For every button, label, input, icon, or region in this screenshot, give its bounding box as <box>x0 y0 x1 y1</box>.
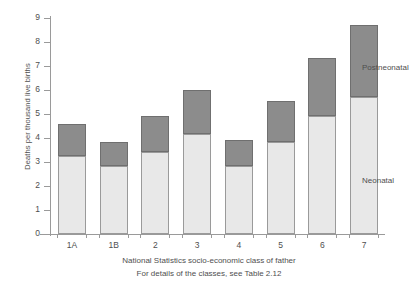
bar-5 <box>267 101 295 234</box>
x-tick-mark <box>211 234 212 238</box>
y-tick-mark <box>44 162 50 163</box>
x-tick-label-1B: 1B <box>94 240 134 250</box>
x-tick-mark <box>57 234 58 238</box>
x-tick-mark <box>99 234 100 238</box>
bar-segment-neonatal <box>350 97 378 234</box>
bar-segment-neonatal <box>141 152 169 234</box>
y-tick-mark <box>44 66 50 67</box>
bar-2 <box>141 116 169 234</box>
bar-segment-neonatal <box>58 156 86 234</box>
x-tick-label-3: 3 <box>177 240 217 250</box>
x-tick-label-4: 4 <box>219 240 259 250</box>
x-tick-mark <box>224 234 225 238</box>
y-tick-mark <box>44 90 50 91</box>
x-tick-mark <box>140 234 141 238</box>
x-tick-label-5: 5 <box>261 240 301 250</box>
x-tick-label-6: 6 <box>302 240 342 250</box>
y-tick-mark <box>44 234 50 235</box>
bar-segment-neonatal <box>100 166 128 234</box>
y-tick-label: 9 <box>20 13 40 22</box>
x-tick-mark <box>266 234 267 238</box>
x-tick-mark <box>253 234 254 238</box>
bar-segment-postneonatal <box>100 142 128 166</box>
y-tick-label: 3 <box>20 157 40 166</box>
y-tick-mark <box>44 42 50 43</box>
bar-segment-neonatal <box>308 116 336 234</box>
bar-6 <box>308 58 336 234</box>
bar-3 <box>183 90 211 234</box>
bar-segment-postneonatal <box>183 90 211 134</box>
x-tick-mark <box>169 234 170 238</box>
y-tick-label: 8 <box>20 37 40 46</box>
y-tick-mark <box>44 186 50 187</box>
x-tick-label-7: 7 <box>344 240 384 250</box>
chart-container: Deaths per thousand live births 01234567… <box>0 0 418 285</box>
y-tick-label: 6 <box>20 85 40 94</box>
bar-segment-postneonatal <box>308 58 336 117</box>
bar-segment-neonatal <box>267 142 295 234</box>
legend-label-neonatal: Neonatal <box>362 176 394 185</box>
bar-1A <box>58 124 86 234</box>
caption-line-2: For details of the classes, see Table 2.… <box>0 269 418 278</box>
bar-segment-postneonatal <box>350 25 378 97</box>
x-tick-label-2: 2 <box>135 240 175 250</box>
y-axis-line <box>50 16 51 236</box>
x-tick-mark <box>336 234 337 238</box>
y-tick-label: 7 <box>20 61 40 70</box>
legend-label-postneonatal: Postneonatal <box>362 63 409 72</box>
y-tick-label: 4 <box>20 133 40 142</box>
x-tick-mark <box>86 234 87 238</box>
bar-segment-postneonatal <box>141 116 169 152</box>
y-tick-label: 2 <box>20 181 40 190</box>
y-tick-label: 1 <box>20 205 40 214</box>
y-tick-mark <box>44 114 50 115</box>
y-tick-label: 0 <box>20 229 40 238</box>
x-tick-mark <box>307 234 308 238</box>
bar-segment-postneonatal <box>225 140 253 165</box>
x-tick-mark <box>295 234 296 238</box>
y-tick-mark <box>44 210 50 211</box>
bar-segment-postneonatal <box>58 124 86 156</box>
bar-7 <box>350 25 378 234</box>
x-tick-mark <box>349 234 350 238</box>
bar-segment-neonatal <box>225 166 253 234</box>
x-tick-mark <box>182 234 183 238</box>
bar-1B <box>100 142 128 234</box>
bar-segment-neonatal <box>183 134 211 234</box>
y-tick-mark <box>44 18 50 19</box>
x-axis-line <box>40 234 385 235</box>
x-tick-label-1A: 1A <box>52 240 92 250</box>
bar-segment-postneonatal <box>267 101 295 142</box>
bar-4 <box>225 140 253 234</box>
x-tick-mark <box>378 234 379 238</box>
x-tick-mark <box>128 234 129 238</box>
y-tick-label: 5 <box>20 109 40 118</box>
caption-line-1: National Statistics socio-economic class… <box>0 256 418 265</box>
y-tick-mark <box>44 138 50 139</box>
